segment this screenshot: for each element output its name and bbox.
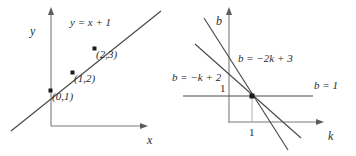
k-axis-tick-label-1: 1 xyxy=(249,126,255,138)
data-point-1-2-label: (1,2) xyxy=(74,72,95,85)
b-axis-tick-label-1: 1 xyxy=(220,82,226,94)
line-label-b-equals-minus-2k-plus-3: b = −2k + 3 xyxy=(238,52,293,64)
left-panel-group: y x y = x + 1 (0,1) (1,2) (2,3) xyxy=(11,7,161,147)
right-panel-group: b k 1 1 b = −2k + 3 b = −k + 2 b = 1 xyxy=(172,7,338,150)
b-axis-label: b xyxy=(216,14,222,28)
x-axis-arrow-icon xyxy=(140,123,148,129)
data-point-0-1-label: (0,1) xyxy=(52,90,73,103)
line-b-equals-minus-2k-plus-3 xyxy=(204,18,288,150)
b-axis-arrow-icon xyxy=(226,7,232,15)
line-label-b-equals-1: b = 1 xyxy=(314,79,338,91)
k-axis-label: k xyxy=(328,129,334,143)
line-equation-label: y = x + 1 xyxy=(69,16,111,28)
k-axis-arrow-icon xyxy=(316,119,324,125)
intersection-point-marker xyxy=(250,94,255,99)
y-axis-label: y xyxy=(29,24,36,38)
figure-svg: y x y = x + 1 (0,1) (1,2) (2,3) xyxy=(0,0,356,156)
data-point-2-3-label: (2,3) xyxy=(96,48,117,61)
line-label-b-equals-minus-k-plus-2: b = −k + 2 xyxy=(172,71,222,83)
x-axis-label: x xyxy=(146,133,153,147)
y-axis-arrow-icon xyxy=(48,7,54,15)
figure-container: y x y = x + 1 (0,1) (1,2) (2,3) xyxy=(0,0,356,156)
